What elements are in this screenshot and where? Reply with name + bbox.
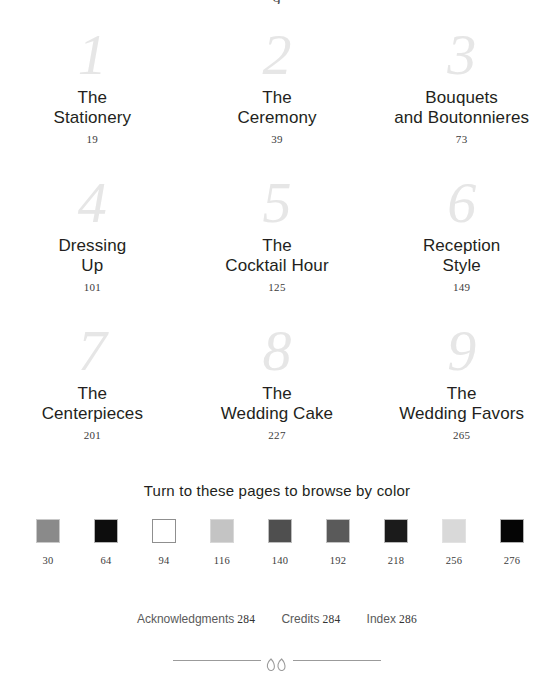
chapter-page-number: 39: [271, 131, 283, 147]
backmatter-links: Acknowledgments284Credits284Index286: [0, 612, 554, 626]
chapter-page-number: 19: [87, 131, 99, 147]
chapter-title: The Centerpieces: [42, 384, 143, 424]
color-swatch-cell[interactable]: 116: [209, 519, 235, 566]
color-swatch-cell[interactable]: 64: [93, 519, 119, 566]
color-browse-heading: Turn to these pages to browse by color: [0, 482, 554, 499]
chapter-number: 5: [262, 172, 291, 234]
color-swatch-cell[interactable]: 30: [35, 519, 61, 566]
chapter-entry[interactable]: 4Dressing Up101: [0, 172, 185, 320]
color-swatch-chip[interactable]: [36, 519, 60, 543]
color-swatch-page-number: 30: [42, 555, 53, 566]
chapter-title: The Stationery: [54, 88, 132, 128]
chapter-title: The Wedding Favors: [399, 384, 524, 424]
chapter-title: Bouquets and Boutonnieres: [394, 88, 529, 128]
chapter-page-number: 101: [84, 279, 101, 295]
color-swatch-chip[interactable]: [94, 519, 118, 543]
toc-page: { "page": { "top_remnant": "9", "backgro…: [0, 0, 554, 683]
chapter-entry[interactable]: 3Bouquets and Boutonnieres73: [369, 24, 554, 172]
rule-line-left: [173, 660, 261, 661]
chapter-entry[interactable]: 1The Stationery19: [0, 24, 185, 172]
color-swatch-page-number: 140: [272, 555, 289, 566]
chapter-title: The Ceremony: [237, 88, 316, 128]
color-swatch-chip[interactable]: [268, 519, 292, 543]
color-swatch-row: 306494116140192218256276: [0, 519, 554, 566]
color-swatch-chip[interactable]: [442, 519, 466, 543]
color-swatch-page-number: 256: [446, 555, 463, 566]
chapter-page-number: 73: [456, 131, 468, 147]
color-swatch-page-number: 192: [330, 555, 347, 566]
color-swatch-chip[interactable]: [326, 519, 350, 543]
color-browse-section: Turn to these pages to browse by color 3…: [0, 482, 554, 566]
chapter-entry[interactable]: 7The Centerpieces201: [0, 320, 185, 468]
chapter-number: 3: [447, 24, 476, 86]
chapter-entry[interactable]: 5The Cocktail Hour125: [185, 172, 370, 320]
color-swatch-chip[interactable]: [152, 519, 176, 543]
table-of-contents-grid: 1The Stationery192The Ceremony393Bouquet…: [0, 24, 554, 468]
color-swatch-cell[interactable]: 94: [151, 519, 177, 566]
chapter-title: The Wedding Cake: [221, 384, 333, 424]
backmatter-label: Acknowledgments: [137, 612, 234, 626]
chapter-number: 1: [78, 24, 107, 86]
chapter-title: The Cocktail Hour: [225, 236, 328, 276]
color-swatch-page-number: 218: [388, 555, 405, 566]
color-swatch-page-number: 64: [100, 555, 111, 566]
backmatter-page-number: 284: [322, 613, 340, 625]
double-leaf-ornament-icon: [264, 657, 290, 673]
chapter-page-number: 265: [453, 427, 470, 443]
backmatter-link[interactable]: Index286: [367, 612, 418, 626]
color-swatch-chip[interactable]: [384, 519, 408, 543]
color-swatch-cell[interactable]: 192: [325, 519, 351, 566]
color-swatch-cell[interactable]: 140: [267, 519, 293, 566]
backmatter-page-number: 284: [237, 613, 255, 625]
backmatter-link[interactable]: Credits284: [281, 612, 340, 626]
color-swatch-chip[interactable]: [500, 519, 524, 543]
chapter-number: 8: [262, 320, 291, 382]
chapter-number: 7: [78, 320, 107, 382]
backmatter-label: Credits: [281, 612, 319, 626]
chapter-page-number: 149: [453, 279, 470, 295]
chapter-entry[interactable]: 2The Ceremony39: [185, 24, 370, 172]
color-swatch-page-number: 116: [214, 555, 230, 566]
chapter-number: 2: [262, 24, 291, 86]
backmatter-page-number: 286: [399, 613, 417, 625]
rule-line-right: [293, 660, 381, 661]
color-swatch-chip[interactable]: [210, 519, 234, 543]
color-swatch-cell[interactable]: 276: [499, 519, 525, 566]
chapter-entry[interactable]: 9The Wedding Favors265: [369, 320, 554, 468]
chapter-page-number: 201: [84, 427, 101, 443]
chapter-page-number: 227: [268, 427, 285, 443]
decorative-footer-rule: [0, 652, 554, 668]
cropped-page-marker: 9: [0, 0, 554, 4]
chapter-number: 9: [447, 320, 476, 382]
chapter-entry[interactable]: 8The Wedding Cake227: [185, 320, 370, 468]
backmatter-label: Index: [367, 612, 396, 626]
backmatter-link[interactable]: Acknowledgments284: [137, 612, 256, 626]
chapter-title: Reception Style: [423, 236, 500, 276]
chapter-entry[interactable]: 6Reception Style149: [369, 172, 554, 320]
color-swatch-cell[interactable]: 218: [383, 519, 409, 566]
color-swatch-page-number: 276: [504, 555, 521, 566]
chapter-number: 6: [447, 172, 476, 234]
chapter-page-number: 125: [268, 279, 285, 295]
color-swatch-page-number: 94: [158, 555, 169, 566]
color-swatch-cell[interactable]: 256: [441, 519, 467, 566]
chapter-number: 4: [78, 172, 107, 234]
chapter-title: Dressing Up: [58, 236, 126, 276]
